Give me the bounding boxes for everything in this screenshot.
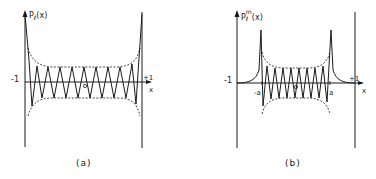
- panel-b-y-axis-label: Pmℓ(x): [241, 12, 263, 22]
- panel-b-y-label-subscript: ℓ: [246, 15, 248, 23]
- panel-b-associated-legendre-curve: [261, 30, 331, 106]
- panel-b-x-axis-label: x: [362, 87, 366, 95]
- panel-a-upper-envelope: [28, 48, 140, 67]
- panel-a-lower-envelope: [28, 98, 140, 116]
- panel-a-y-axis-label: Pℓ(x): [29, 12, 47, 20]
- panel-b-lower-envelope: [262, 98, 330, 114]
- panel-a-left-tick-label: -1: [11, 76, 19, 84]
- panel-a-origin-marker: [83, 84, 86, 87]
- panel-b-inner-right-tick-label: a: [329, 89, 333, 97]
- panel-b-y-arrow-icon: [235, 10, 240, 17]
- panel-a-plot: [23, 10, 153, 148]
- panel-b-y-label-argument: (x): [252, 13, 263, 22]
- panel-a-x-axis-label: x: [149, 86, 153, 94]
- panel-b-plot: [235, 10, 365, 148]
- panel-b-caption: (b): [285, 158, 301, 168]
- panel-a-caption: (a): [76, 158, 92, 168]
- panel-b-left-tail: [237, 30, 261, 83]
- panel-b-inner-left-tick-label: -a: [254, 89, 261, 97]
- panel-a-y-label-argument: (x): [36, 11, 47, 20]
- panel-b-left-tick-label: -1: [224, 77, 232, 85]
- diagram-canvas: [0, 0, 376, 179]
- panel-a-right-tick-label: +1: [143, 74, 153, 82]
- panel-a-legendre-curve: [25, 14, 142, 106]
- panel-b-upper-envelope: [262, 52, 330, 68]
- panel-b-right-tick-label: +1: [349, 75, 359, 83]
- panel-a-y-label-subscript: ℓ: [34, 14, 36, 21]
